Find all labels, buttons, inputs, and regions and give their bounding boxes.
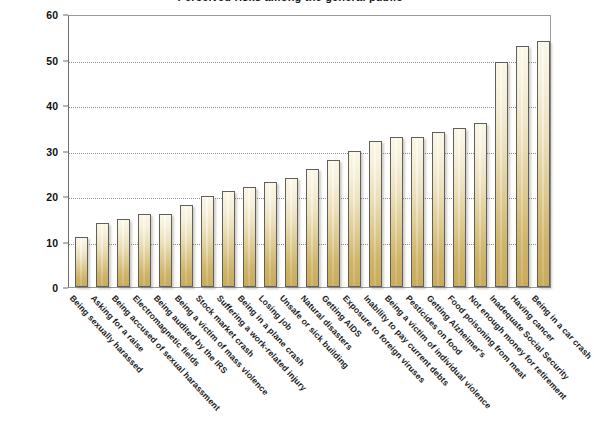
- x-axis-category-label-text: Exposure to foreign viruses: [340, 293, 427, 385]
- x-axis-category-label: Inability to pay current debts: [361, 293, 450, 388]
- x-axis-category-label-text: Being in a plane crash: [235, 293, 306, 368]
- bar: [432, 132, 445, 287]
- bar: [474, 123, 487, 287]
- bar: [495, 62, 508, 287]
- x-axis-category-label-text: Losing job: [256, 293, 294, 332]
- x-axis-category-label-text: Food poisoning from meat: [445, 293, 528, 381]
- x-axis-category-label-text: Inadequate Social Security: [487, 293, 571, 382]
- bar: [201, 196, 214, 287]
- y-axis-tick-label: 60: [46, 9, 58, 21]
- bar: [285, 178, 298, 287]
- x-axis-category-label-text: Being sexually harassed: [67, 293, 144, 375]
- x-axis-category-label-text: Stock market crash: [193, 293, 256, 359]
- x-axis-category-label: Being accused of sexual harassment: [109, 293, 222, 413]
- y-axis-tick-label: 20: [46, 191, 58, 203]
- bar: [411, 137, 424, 287]
- x-axis-category-label-text: Getting Alzheimer's: [424, 293, 487, 360]
- bar: [453, 128, 466, 287]
- x-axis-category-label-text: Not enough money for retirement: [466, 293, 568, 402]
- x-axis-category-label: Getting Alzheimer's: [424, 293, 487, 360]
- x-axis-category-label: Not enough money for retirement: [466, 293, 568, 402]
- bar: [348, 151, 361, 288]
- x-axis-category-label: Food poisoning from meat: [445, 293, 528, 381]
- x-axis-category-label: Stock market crash: [193, 293, 256, 359]
- bar-series: [69, 16, 550, 287]
- bar: [243, 187, 256, 287]
- x-axis-category-label-text: Getting AIDS: [319, 293, 363, 339]
- x-axis-category-label: Suffering a work-related injury: [214, 293, 308, 393]
- x-axis-category-label-text: Unsafe or sick building: [277, 293, 350, 371]
- x-axis-category-label: Exposure to foreign viruses: [340, 293, 427, 385]
- x-axis-category-label-text: Being accused of sexual harassment: [109, 293, 222, 413]
- bar: [306, 169, 319, 287]
- x-axis-category-label: Being a victim of individual violence: [382, 293, 493, 411]
- x-axis-category-label: Electromagnetic fields: [130, 293, 201, 368]
- bar: [390, 137, 403, 287]
- bar: [117, 219, 130, 287]
- x-axis-category-label: Being in a car crash: [529, 293, 593, 361]
- y-axis-tick-label: 50: [46, 55, 58, 67]
- x-axis-category-label: Being sexually harassed: [67, 293, 144, 375]
- x-axis-category-label-text: Natural disasters: [298, 293, 354, 352]
- bar: [264, 182, 277, 287]
- y-axis-tick-label: 30: [46, 146, 58, 158]
- x-axis-category-label-text: Asking for a raise: [88, 293, 146, 354]
- bar: [75, 237, 88, 287]
- bar: [222, 191, 235, 287]
- bar: [159, 214, 172, 287]
- x-axis-category-label: Having cancer: [508, 293, 556, 344]
- x-axis-category-label-text: Being a victim of mass violence: [172, 293, 270, 397]
- y-axis-tick-label: 0: [52, 282, 58, 294]
- x-axis-category-label-text: Being a victim of individual violence: [382, 293, 493, 411]
- x-axis-category-label-text: Suffering a work-related injury: [214, 293, 308, 393]
- x-axis-category-label-text: Being in a car crash: [529, 293, 593, 361]
- bar: [138, 214, 151, 287]
- bar: [327, 160, 340, 287]
- x-axis-category-label-text: Inability to pay current debts: [361, 293, 450, 388]
- chart-title: Perceived risks among the general public: [120, 0, 460, 3]
- x-axis-category-label: Getting AIDS: [319, 293, 363, 339]
- y-axis-tick-label: 40: [46, 100, 58, 112]
- x-axis-category-label-text: Electromagnetic fields: [130, 293, 201, 368]
- x-axis-category-label: Pesticides on food: [403, 293, 464, 357]
- x-axis-category-label: Inadequate Social Security: [487, 293, 571, 382]
- bar: [516, 46, 529, 287]
- x-axis-category-label-text: Pesticides on food: [403, 293, 464, 357]
- x-axis-category-label: Unsafe or sick building: [277, 293, 350, 371]
- x-axis-category-label: Being audited by the IRS: [151, 293, 229, 376]
- y-axis: 0102030405060: [0, 0, 68, 433]
- x-axis-category-label: Losing job: [256, 293, 294, 332]
- bar: [537, 41, 550, 287]
- plot-area: [68, 15, 551, 288]
- x-axis-category-label: Being in a plane crash: [235, 293, 306, 368]
- bar: [96, 223, 109, 287]
- x-axis-category-label: Asking for a raise: [88, 293, 146, 354]
- x-axis-category-label: Being a victim of mass violence: [172, 293, 270, 397]
- x-axis-category-label: Natural disasters: [298, 293, 354, 352]
- y-axis-tick-label: 10: [46, 237, 58, 249]
- x-axis-category-label-text: Being audited by the IRS: [151, 293, 229, 376]
- bar: [180, 205, 193, 287]
- x-axis-category-label-text: Having cancer: [508, 293, 556, 344]
- bar: [369, 141, 382, 287]
